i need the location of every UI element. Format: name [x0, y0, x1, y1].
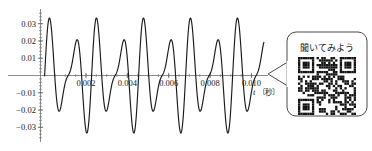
qr-module: [347, 108, 349, 110]
qr-module: [333, 73, 335, 75]
figure-container: 0.030.020.01−0.01−0.02−0.03 0.0020.0040.…: [0, 0, 372, 151]
qr-module: [349, 96, 351, 98]
qr-module: [298, 62, 300, 64]
qr-module: [298, 69, 300, 71]
qr-module: [335, 92, 337, 94]
qr-module: [312, 106, 314, 108]
qr-module: [303, 57, 305, 59]
qr-module: [340, 66, 342, 68]
x-axis-title: t: [253, 87, 256, 97]
qr-module: [324, 59, 326, 61]
qr-module: [321, 92, 323, 94]
qr-module: [328, 99, 330, 101]
qr-module: [342, 57, 344, 59]
qr-module: [333, 110, 335, 112]
qr-module: [333, 76, 335, 78]
qr-module: [333, 94, 335, 96]
qr-module: [324, 108, 326, 110]
qr-module: [307, 89, 309, 91]
qr-module: [330, 94, 332, 96]
qr-module: [328, 76, 330, 78]
x-tick-label: 0.008: [201, 78, 220, 88]
qr-module: [310, 71, 312, 73]
qr-module: [351, 103, 353, 105]
qr-module: [317, 76, 319, 78]
qr-module: [307, 103, 309, 105]
qr-module: [305, 57, 307, 59]
qr-module: [333, 57, 335, 59]
qr-module: [314, 76, 316, 78]
qr-module: [328, 73, 330, 75]
qr-module: [307, 62, 309, 64]
qr-module: [342, 103, 344, 105]
qr-module: [342, 113, 344, 115]
qr-module: [305, 108, 307, 110]
qr-module: [312, 69, 314, 71]
qr-module: [307, 57, 309, 59]
qr-module: [337, 78, 339, 80]
qr-module: [305, 83, 307, 85]
qr-module: [319, 76, 321, 78]
qr-module: [305, 103, 307, 105]
qr-module: [333, 113, 335, 115]
qr-module: [312, 64, 314, 66]
qr-module: [347, 71, 349, 73]
qr-module: [312, 108, 314, 110]
qr-module: [335, 101, 337, 103]
qr-module: [298, 101, 300, 103]
qr-module: [349, 99, 351, 101]
qr-module: [326, 59, 328, 61]
qr-module: [342, 89, 344, 91]
qr-module: [324, 66, 326, 68]
qr-module: [344, 108, 346, 110]
qr-module: [342, 92, 344, 94]
qr-module: [333, 69, 335, 71]
qr-module: [307, 66, 309, 68]
qr-module: [326, 64, 328, 66]
qr-module: [319, 64, 321, 66]
qr-module: [317, 99, 319, 101]
qr-module: [305, 80, 307, 82]
qr-module: [305, 89, 307, 91]
qr-module: [312, 85, 314, 87]
qr-module: [307, 85, 309, 87]
qr-module: [300, 99, 302, 101]
qr-module: [347, 83, 349, 85]
qr-module: [326, 113, 328, 115]
qr-module: [344, 87, 346, 89]
qr-module: [333, 99, 335, 101]
qr-module: [298, 76, 300, 78]
qr-module: [330, 59, 332, 61]
qr-module: [310, 83, 312, 85]
callout-balloon[interactable]: 聞いてみよう: [268, 32, 367, 116]
qr-module: [305, 62, 307, 64]
qr-module: [344, 64, 346, 66]
qr-module: [351, 94, 353, 96]
qr-module: [298, 66, 300, 68]
qr-module: [340, 76, 342, 78]
qr-module: [337, 92, 339, 94]
qr-module: [305, 87, 307, 89]
qr-module: [344, 94, 346, 96]
qr-module: [337, 110, 339, 112]
qr-module: [298, 71, 300, 73]
qr-module: [333, 71, 335, 73]
qr-module: [307, 113, 309, 115]
qr-module: [351, 80, 353, 82]
qr-module: [340, 92, 342, 94]
qr-module: [298, 103, 300, 105]
qr-module: [347, 92, 349, 94]
qr-module: [314, 87, 316, 89]
qr-module: [337, 76, 339, 78]
qr-module: [319, 110, 321, 112]
qr-module: [342, 78, 344, 80]
qr-module: [328, 85, 330, 87]
qr-module: [307, 99, 309, 101]
qr-module: [335, 71, 337, 73]
qr-module: [351, 57, 353, 59]
qr-module: [298, 89, 300, 91]
qr-module: [330, 110, 332, 112]
qr-module: [317, 92, 319, 94]
qr-module: [314, 78, 316, 80]
qr-module: [319, 101, 321, 103]
